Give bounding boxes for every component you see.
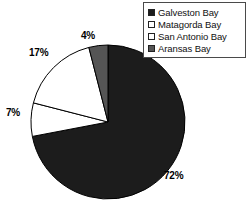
legend-label-san-antonio-bay: San Antonio Bay: [158, 31, 227, 42]
legend-swatch-icon-san-antonio-bay: [148, 33, 155, 40]
legend-swatch-icon-matagorda-bay: [148, 21, 155, 28]
pie-label-aransas-bay-percent: 4%: [81, 30, 95, 41]
legend-label-aransas-bay: Aransas Bay: [158, 43, 211, 54]
legend-label-galveston-bay: Galveston Bay: [158, 7, 218, 18]
chart-legend: Galveston Bay Matagorda Bay San Antonio …: [143, 2, 246, 58]
legend-item-aransas-bay[interactable]: Aransas Bay: [148, 42, 242, 54]
legend-item-san-antonio-bay[interactable]: San Antonio Bay: [148, 30, 242, 42]
pie-label-galveston-bay-percent: 72%: [164, 170, 183, 181]
legend-swatch-icon-aransas-bay: [148, 45, 155, 52]
legend-label-matagorda-bay: Matagorda Bay: [158, 19, 221, 30]
pie-chart-figure: 4% 17% 7% 72% Galveston Bay Matagorda Ba…: [0, 0, 250, 208]
legend-swatch-icon-galveston-bay: [148, 9, 155, 16]
legend-item-matagorda-bay[interactable]: Matagorda Bay: [148, 18, 242, 30]
legend-item-galveston-bay[interactable]: Galveston Bay: [148, 6, 242, 18]
pie-label-san-antonio-bay-percent: 17%: [29, 47, 48, 58]
pie-label-matagorda-bay-percent: 7%: [6, 107, 20, 118]
